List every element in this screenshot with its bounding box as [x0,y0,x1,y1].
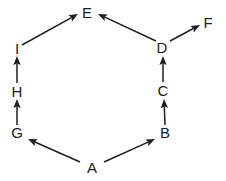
node-label-h: H [12,84,23,99]
node-label-b: B [160,125,170,140]
edge-g-to-h [13,99,20,125]
edge-shaft [35,142,80,162]
edge-c-to-d [159,56,166,82]
edge-b-to-c [161,99,168,125]
node-label-e: E [82,5,92,20]
node-label-a: A [87,160,97,175]
edge-shaft [105,17,156,41]
edge-shaft [164,106,165,125]
node-label-g: G [11,125,23,140]
node-label-c: C [158,83,169,98]
node-label-i: I [15,41,19,56]
edge-d-to-f [170,25,200,41]
edge-i-to-e [22,14,78,45]
node-label-d: D [157,40,168,55]
edge-d-to-e [98,14,156,41]
edge-shaft [22,18,71,45]
edge-h-to-i [13,56,20,83]
graph-edges-canvas [0,0,226,181]
edge-shaft [104,142,148,162]
node-label-f: F [203,15,212,30]
edge-a-to-b [104,139,155,162]
edge-shaft [170,29,193,41]
edge-a-to-g [28,139,80,162]
graph-diagram: EFIDHCGBA [0,0,226,181]
